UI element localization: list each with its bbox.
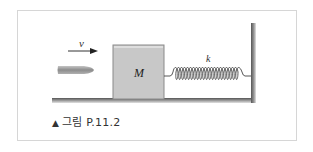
physics-diagram: v M k (0, 0, 313, 152)
spring (164, 68, 251, 80)
mass-label: M (133, 66, 145, 80)
figure-caption: ▲그림 P.11.2 (52, 113, 120, 129)
bullet (58, 66, 95, 74)
velocity-label: v (79, 37, 84, 49)
caption-text: 그림 P.11.2 (62, 116, 120, 129)
spring-constant-label: k (206, 53, 211, 64)
triangle-marker-icon: ▲ (52, 118, 59, 128)
wall (251, 23, 256, 103)
